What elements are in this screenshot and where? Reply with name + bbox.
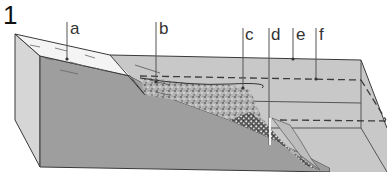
label-f: f — [319, 26, 324, 43]
block-diagram: 1 — [0, 0, 387, 172]
label-b: b — [159, 20, 168, 37]
diagram-graphic — [0, 0, 387, 172]
label-d: d — [271, 26, 280, 43]
label-a: a — [70, 20, 79, 37]
label-c: c — [245, 26, 254, 43]
block-left-face — [15, 34, 40, 167]
label-e: e — [296, 26, 305, 43]
